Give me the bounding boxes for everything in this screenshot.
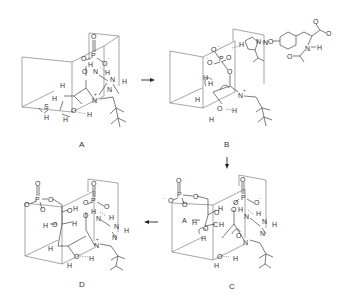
svg-text:H: H <box>72 220 77 227</box>
svg-text:+: + <box>243 88 246 93</box>
svg-text:O: O <box>268 38 274 45</box>
svg-text:O: O <box>326 30 332 37</box>
svg-text:H: H <box>87 111 92 118</box>
svg-text:O: O <box>74 253 80 260</box>
panel-b: O - O P O - O H H H N + O H H H N N O O … <box>170 18 332 149</box>
svg-text:O: O <box>203 225 209 232</box>
svg-text:H: H <box>201 235 206 242</box>
svg-text:H: H <box>124 227 129 234</box>
svg-text:O: O <box>91 33 97 40</box>
svg-text:H: H <box>44 114 49 121</box>
svg-text:O: O <box>91 180 97 187</box>
reaction-mechanism-diagram: O P O O - H N H N H O H H N + N S H O H … <box>0 0 347 301</box>
svg-text:O: O <box>40 206 46 213</box>
svg-text:O: O <box>104 203 110 210</box>
svg-text:H: H <box>208 80 213 87</box>
svg-text:H: H <box>89 255 94 262</box>
svg-text:O: O <box>83 199 89 206</box>
svg-text:O: O <box>313 18 319 25</box>
svg-text:H: H <box>219 221 224 228</box>
svg-text:H: H <box>214 262 219 269</box>
svg-text:H: H <box>60 82 65 89</box>
panel-d-atoms: O P O O O O H H O H O P O O H N H N H O … <box>24 180 129 269</box>
svg-text:N: N <box>114 223 119 230</box>
svg-text:H: H <box>88 61 93 68</box>
svg-text:N: N <box>262 218 267 225</box>
svg-text:+: + <box>94 92 97 97</box>
svg-text:H: H <box>105 69 110 76</box>
svg-text:H: H <box>43 222 48 229</box>
svg-text:H: H <box>256 210 261 217</box>
svg-text:P: P <box>219 55 224 62</box>
panel-b-label: B <box>224 140 229 149</box>
svg-text:H: H <box>67 262 72 269</box>
svg-text:O: O <box>226 54 232 61</box>
svg-text:O: O <box>52 221 58 228</box>
svg-text:P: P <box>177 191 182 198</box>
svg-text:O: O <box>168 197 174 204</box>
svg-text:H: H <box>233 255 238 262</box>
svg-text:N: N <box>93 68 98 75</box>
svg-text:N: N <box>107 86 112 93</box>
arrow-a-to-b <box>141 78 155 82</box>
svg-text:N: N <box>243 239 248 246</box>
svg-text:H: H <box>209 116 214 123</box>
svg-text:H: H <box>317 44 322 51</box>
arrow-b-to-c <box>225 157 229 169</box>
panel-a: O P O O - H N H N H O H H N + N S H O H … <box>22 33 127 149</box>
svg-text:O: O <box>227 68 233 75</box>
svg-text:N: N <box>244 213 249 220</box>
svg-text:O: O <box>81 55 87 62</box>
svg-text:P: P <box>35 196 40 203</box>
svg-text:O: O <box>193 193 199 200</box>
svg-text:H: H <box>73 205 78 212</box>
svg-text:P: P <box>241 194 246 201</box>
svg-text:H: H <box>192 219 197 226</box>
svg-text:P: P <box>91 52 96 59</box>
svg-text:H: H <box>239 41 244 48</box>
svg-text:O: O <box>207 59 213 66</box>
svg-text:O: O <box>217 253 223 260</box>
svg-text:H: H <box>63 116 68 123</box>
svg-text:H: H <box>272 221 277 228</box>
svg-text:O: O <box>82 68 88 75</box>
svg-text:O: O <box>211 46 217 53</box>
svg-text:H: H <box>109 214 114 221</box>
svg-text:P: P <box>91 197 96 204</box>
svg-text:N: N <box>110 76 115 83</box>
arrow-c-to-d <box>144 220 158 224</box>
svg-text:O: O <box>102 60 108 67</box>
svg-text:-: - <box>163 196 165 201</box>
svg-text:+: + <box>96 237 99 242</box>
svg-text:N: N <box>94 242 99 249</box>
svg-text:O: O <box>287 53 293 60</box>
svg-text:-: - <box>218 44 220 49</box>
panel-c-label: C <box>229 282 235 291</box>
svg-text:N: N <box>96 215 101 222</box>
svg-text:H: H <box>238 206 243 213</box>
svg-text:C: C <box>213 221 218 228</box>
svg-text:O: O <box>231 206 237 213</box>
svg-text:N: N <box>112 234 117 241</box>
panel-d-label: D <box>79 280 85 289</box>
svg-text:H: H <box>122 78 127 85</box>
svg-text:O: O <box>240 176 246 183</box>
svg-text:H: H <box>232 107 237 114</box>
svg-text:O: O <box>71 107 77 114</box>
svg-text:O: O <box>214 209 220 216</box>
svg-text:N: N <box>238 92 243 99</box>
svg-text:O: O <box>83 212 89 219</box>
svg-text:S: S <box>44 103 49 110</box>
svg-text:O: O <box>35 180 41 187</box>
svg-text:O: O <box>236 232 242 239</box>
svg-text:A: A <box>182 217 187 224</box>
panel-d: O P O O O O H H O H O P O O H N H N H O … <box>24 179 129 289</box>
svg-text:-: - <box>259 196 261 201</box>
svg-text:H: H <box>52 95 57 102</box>
svg-text:O: O <box>233 199 239 206</box>
svg-text:-: - <box>108 56 110 61</box>
svg-text:N: N <box>92 97 97 104</box>
svg-text:O: O <box>48 196 54 203</box>
panel-c: O P O O O - - H O A H O C H H O P O O - … <box>163 175 277 291</box>
svg-text:N: N <box>260 230 265 237</box>
